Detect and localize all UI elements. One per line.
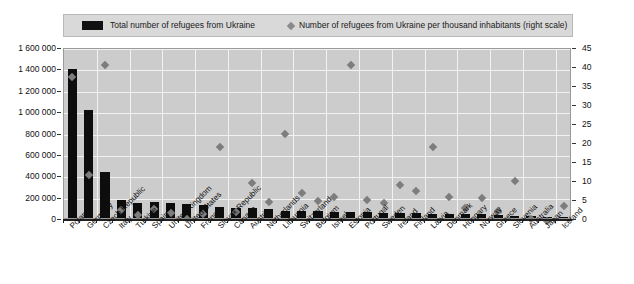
y-axis-right: 051015202530354045: [574, 0, 634, 284]
x-axis-tick: [96, 219, 97, 223]
y-axis-left-tick-label: 0: [51, 214, 56, 224]
bar: [84, 110, 93, 218]
y-axis-right-tick: [572, 105, 576, 106]
legend-bar-swatch-icon: [82, 21, 103, 30]
gridline-vertical: [490, 49, 491, 218]
y-axis-right-tick-label: 10: [582, 176, 591, 186]
scatter-marker: [101, 61, 109, 69]
x-axis-tick: [129, 219, 130, 223]
scatter-marker: [428, 143, 436, 151]
scatter-marker: [412, 186, 420, 194]
gridline: [64, 113, 570, 114]
x-axis-tick: [505, 219, 506, 223]
gridline-vertical: [261, 49, 262, 218]
scatter-marker: [281, 129, 289, 137]
chart-legend: Total number of refugees from Ukraine Nu…: [63, 14, 573, 37]
legend-bars-label: Total number of refugees from Ukraine: [110, 21, 255, 30]
y-axis-left-tick: [57, 91, 61, 92]
x-axis-tick: [260, 219, 261, 223]
y-axis-right-tick-label: 20: [582, 138, 591, 148]
gridline-vertical: [293, 49, 294, 218]
x-axis-tick: [342, 219, 343, 223]
x-axis-tick: [407, 219, 408, 223]
y-axis-left-tick-label: 1 000 000: [18, 107, 56, 117]
gridline: [64, 92, 570, 93]
x-axis-tick: [456, 219, 457, 223]
x-axis-tick: [276, 219, 277, 223]
scatter-marker: [445, 193, 453, 201]
y-axis-right-tick-label: 40: [582, 62, 591, 72]
y-axis-left-tick: [57, 69, 61, 70]
gridline-vertical: [392, 49, 393, 218]
y-axis-left-tick: [57, 176, 61, 177]
y-axis-right-tick: [572, 67, 576, 68]
scatter-marker: [297, 188, 305, 196]
y-axis-left-tick: [57, 134, 61, 135]
x-axis-tick: [227, 219, 228, 223]
gridline: [64, 177, 570, 178]
x-axis-tick: [489, 219, 490, 223]
y-axis-right-tick-label: 25: [582, 119, 591, 129]
y-axis-left-tick-label: 1 200 000: [18, 86, 56, 96]
y-axis-right-tick: [572, 124, 576, 125]
y-axis-left-tick-label: 400 000: [25, 171, 56, 181]
legend-item-bars: Total number of refugees from Ukraine: [82, 15, 255, 36]
y-axis-right-tick: [572, 143, 576, 144]
x-axis-tick: [309, 219, 310, 223]
x-axis-tick: [243, 219, 244, 223]
y-axis-right-tick-label: 15: [582, 157, 591, 167]
gridline: [64, 135, 570, 136]
legend-item-markers: Number of refugees from Ukraine per thou…: [288, 15, 567, 36]
x-axis-tick: [555, 219, 556, 223]
gridline-vertical: [556, 49, 557, 218]
x-axis-tick: [145, 219, 146, 223]
gridline: [64, 70, 570, 71]
legend-markers-label: Number of refugees from Ukraine per thou…: [299, 21, 567, 30]
x-axis-tick: [538, 219, 539, 223]
gridline-vertical: [523, 49, 524, 218]
chart-container: Total number of refugees from Ukraine Nu…: [0, 0, 634, 284]
y-axis-left-tick: [57, 48, 61, 49]
gridline: [64, 49, 570, 50]
x-axis-tick: [178, 219, 179, 223]
gridline-vertical: [326, 49, 327, 218]
y-axis-right-tick: [572, 219, 576, 220]
x-axis-tick: [522, 219, 523, 223]
y-axis-left: 0200 000400 000600 000800 0001 000 0001 …: [0, 0, 61, 284]
y-axis-right-tick-label: 30: [582, 100, 591, 110]
gridline-vertical: [195, 49, 196, 218]
y-axis-right-tick: [572, 181, 576, 182]
gridline-vertical: [359, 49, 360, 218]
x-axis-tick: [473, 219, 474, 223]
gridline-vertical: [228, 49, 229, 218]
y-axis-left-tick: [57, 112, 61, 113]
x-axis-tick: [292, 219, 293, 223]
x-axis-tick: [194, 219, 195, 223]
y-axis-left-tick: [57, 155, 61, 156]
x-axis-tick: [424, 219, 425, 223]
y-axis-right-tick: [572, 86, 576, 87]
x-axis-tick: [112, 219, 113, 223]
y-axis-left-tick-label: 1 400 000: [18, 64, 56, 74]
x-axis-tick: [63, 219, 64, 223]
gridline-vertical: [457, 49, 458, 218]
gridline-vertical: [425, 49, 426, 218]
y-axis-right-tick-label: 35: [582, 81, 591, 91]
x-axis-tick: [325, 219, 326, 223]
x-axis-tick: [391, 219, 392, 223]
y-axis-left-tick-label: 800 000: [25, 129, 56, 139]
y-axis-right-tick: [572, 48, 576, 49]
y-axis-left-tick-label: 1 600 000: [18, 43, 56, 53]
x-axis-tick: [79, 219, 80, 223]
scatter-marker: [396, 181, 404, 189]
y-axis-right-tick: [572, 162, 576, 163]
bar: [68, 69, 77, 218]
x-axis-tick: [161, 219, 162, 223]
legend-diamond-marker-icon: [287, 21, 295, 29]
gridline-vertical: [162, 49, 163, 218]
x-axis-tick: [440, 219, 441, 223]
scatter-marker: [363, 196, 371, 204]
x-axis-tick: [374, 219, 375, 223]
scatter-marker: [560, 202, 568, 210]
y-axis-right-tick-label: 45: [582, 43, 591, 53]
